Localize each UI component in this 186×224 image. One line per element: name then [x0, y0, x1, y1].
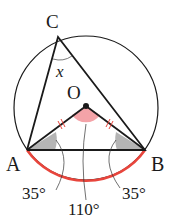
label-A: A — [6, 153, 21, 175]
label-35-right: 35° — [122, 184, 146, 203]
label-C: C — [46, 11, 59, 32]
arc-AB — [27, 150, 145, 181]
angle-x-arc — [53, 56, 72, 60]
geometry-figure: C x O A B 35° 110° 35° — [0, 0, 186, 224]
label-110: 110° — [68, 200, 100, 219]
center-O-dot — [83, 103, 89, 109]
label-O: O — [67, 82, 81, 103]
leader-110 — [83, 124, 86, 200]
leader-35-left — [56, 140, 64, 190]
label-x: x — [55, 62, 64, 81]
label-35-left: 35° — [22, 184, 46, 203]
label-B: B — [151, 153, 164, 175]
triangle-ABC — [27, 37, 145, 150]
